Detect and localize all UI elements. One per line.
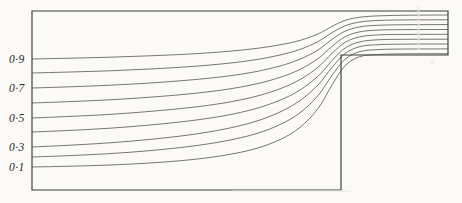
streamline-label-0-9: 0·9	[9, 53, 25, 65]
streamline-label-0-5: 0·5	[9, 112, 25, 124]
streamline	[32, 20, 448, 73]
streamline-label-0-1: 0·1	[9, 161, 25, 173]
streamline	[32, 25, 448, 88]
streamline	[32, 44, 448, 147]
streamline	[32, 15, 448, 59]
streamlines-group	[32, 15, 448, 167]
paper-speck	[430, 60, 435, 64]
streamline-label-0-3: 0·3	[9, 141, 25, 153]
streamline-figure: 0·90·70·50·30·1	[0, 0, 462, 203]
paper-speck	[231, 190, 351, 192]
streamline	[32, 30, 448, 104]
streamline-label-0-7: 0·7	[9, 82, 25, 94]
streamline-plot-svg	[0, 0, 462, 203]
paper-speck	[417, 6, 420, 50]
streamline	[32, 49, 448, 157]
streamline	[32, 34, 448, 118]
streamline	[32, 54, 448, 167]
